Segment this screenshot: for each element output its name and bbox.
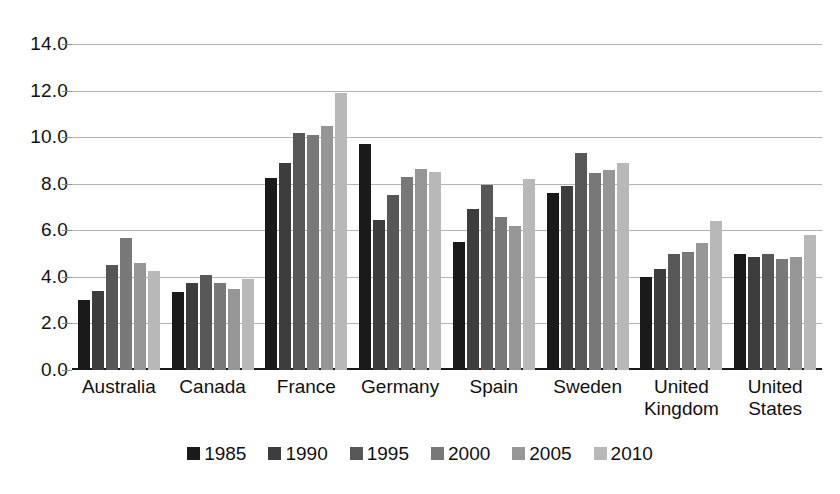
- legend-swatch-icon: [187, 447, 200, 460]
- bar: [279, 163, 291, 370]
- bar: [172, 292, 184, 370]
- bar: [762, 254, 774, 370]
- legend-item[interactable]: 2000: [431, 444, 490, 463]
- legend-swatch-icon: [431, 447, 444, 460]
- x-axis-label-line1: Spain: [470, 376, 519, 397]
- legend-label: 1990: [285, 444, 327, 463]
- x-axis-label: Australia: [72, 376, 166, 420]
- x-axis-label-line1: Canada: [179, 376, 246, 397]
- legend-item[interactable]: 2005: [512, 444, 571, 463]
- legend-label: 1985: [204, 444, 246, 463]
- y-axis-tick-mark: [62, 277, 72, 278]
- bar: [589, 173, 601, 370]
- bar-group: [72, 44, 166, 370]
- bar: [387, 195, 399, 370]
- legend-item[interactable]: 1990: [268, 444, 327, 463]
- legend-label: 2000: [448, 444, 490, 463]
- bar: [804, 235, 816, 370]
- bars: [78, 44, 160, 370]
- x-axis-label-line2: States: [728, 398, 822, 420]
- bar: [335, 93, 347, 370]
- legend-item[interactable]: 2010: [594, 444, 653, 463]
- legend-label: 2005: [529, 444, 571, 463]
- bar: [453, 242, 465, 370]
- x-axis-labels: AustraliaCanadaFranceGermanySpainSwedenU…: [72, 376, 822, 420]
- x-axis-label: France: [260, 376, 354, 420]
- y-axis-tick-label: 4.0: [6, 267, 68, 286]
- bar: [696, 243, 708, 370]
- bar-group: [635, 44, 729, 370]
- bars: [172, 44, 254, 370]
- legend-item[interactable]: 1995: [350, 444, 409, 463]
- y-axis-tick-mark: [62, 184, 72, 185]
- bar: [106, 265, 118, 370]
- x-axis-label: Spain: [447, 376, 541, 420]
- y-axis-tick-mark: [62, 137, 72, 138]
- y-axis-tick-mark: [62, 323, 72, 324]
- bar: [265, 178, 277, 370]
- bar: [307, 135, 319, 370]
- bar-group: [728, 44, 822, 370]
- y-axis: 0.02.04.06.08.010.012.014.0: [0, 44, 68, 370]
- y-axis-tick-mark: [62, 370, 72, 371]
- bar: [359, 144, 371, 370]
- x-axis-label: Germany: [353, 376, 447, 420]
- bar: [200, 275, 212, 370]
- bar: [186, 283, 198, 370]
- bar: [481, 185, 493, 370]
- bar: [654, 269, 666, 370]
- chart-legend: 198519901995200020052010: [0, 444, 840, 463]
- bar: [547, 193, 559, 370]
- bar: [603, 170, 615, 370]
- legend-label: 1995: [367, 444, 409, 463]
- x-axis-label: UnitedKingdom: [635, 376, 729, 420]
- bar: [321, 126, 333, 371]
- y-axis-tick-mark: [62, 230, 72, 231]
- bar: [242, 279, 254, 370]
- bar-group: [353, 44, 447, 370]
- legend-swatch-icon: [350, 447, 363, 460]
- bar: [228, 289, 240, 371]
- x-axis-label-line1: France: [277, 376, 336, 397]
- y-axis-tick-label: 14.0: [6, 34, 68, 53]
- bars: [265, 44, 347, 370]
- bars: [640, 44, 722, 370]
- y-axis-tick-label: 6.0: [6, 220, 68, 239]
- bar-chart: 0.02.04.06.08.010.012.014.0 AustraliaCan…: [0, 0, 840, 494]
- bar-group: [447, 44, 541, 370]
- y-axis-tick-label: 12.0: [6, 81, 68, 100]
- legend-label: 2010: [611, 444, 653, 463]
- bar: [640, 277, 652, 370]
- bars: [734, 44, 816, 370]
- bars: [359, 44, 441, 370]
- bar-group: [260, 44, 354, 370]
- bar: [575, 153, 587, 370]
- bars: [547, 44, 629, 370]
- bar: [92, 291, 104, 370]
- bar: [78, 300, 90, 370]
- x-axis-label-line1: Sweden: [553, 376, 622, 397]
- bar: [617, 163, 629, 370]
- x-axis-label-line1: Australia: [82, 376, 156, 397]
- legend-item[interactable]: 1985: [187, 444, 246, 463]
- bar: [373, 220, 385, 370]
- y-axis-tick-label: 0.0: [6, 360, 68, 379]
- y-axis-tick-mark: [62, 91, 72, 92]
- bar: [415, 169, 427, 370]
- bar: [509, 226, 521, 370]
- bar: [495, 217, 507, 370]
- bar: [682, 252, 694, 370]
- y-axis-tick-label: 2.0: [6, 313, 68, 332]
- bar-group: [541, 44, 635, 370]
- bar: [748, 257, 760, 370]
- x-axis-label-line2: Kingdom: [635, 398, 729, 420]
- legend-swatch-icon: [594, 447, 607, 460]
- x-axis-label: Sweden: [541, 376, 635, 420]
- bar: [429, 172, 441, 370]
- x-axis-label: UnitedStates: [728, 376, 822, 420]
- bar: [734, 254, 746, 370]
- x-axis-label-line1: Germany: [361, 376, 439, 397]
- bar: [467, 209, 479, 370]
- y-axis-tick-mark: [62, 44, 72, 45]
- plot-area: [72, 44, 822, 370]
